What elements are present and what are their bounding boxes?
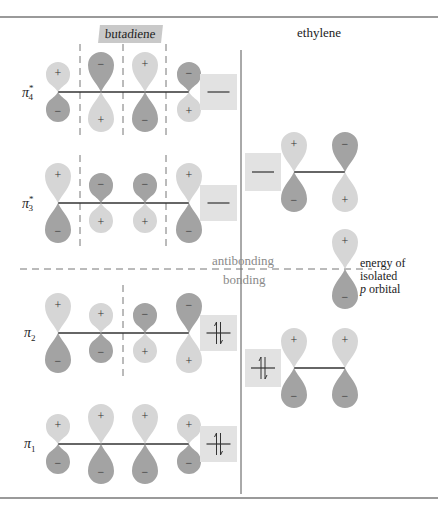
pi4-name: π: [22, 85, 29, 100]
butadiene-mo0-atom0-upper-lobe-sign: +: [55, 66, 62, 80]
butadiene-mo2-atom0-lower-lobe-sign: −: [55, 354, 62, 368]
butadiene-mo1-atom2-upper-lobe-sign: −: [142, 177, 149, 191]
butadiene-mo1-atom1-upper-lobe-sign: −: [98, 177, 105, 191]
isolated-p-line3: p orbital: [360, 283, 405, 296]
isolated-p-upper-lobe-sign: +: [342, 234, 349, 248]
ethylene-mo1-atom1-lower-lobe-sign: −: [342, 389, 349, 403]
top-rule: [0, 16, 438, 18]
butadiene-mo0-atom3-lower-lobe-sign: +: [186, 104, 193, 118]
butadiene-mo2-atom2-lower-lobe-sign: +: [142, 345, 149, 359]
butadiene-mo1-atom3-upper-lobe-sign: +: [186, 168, 193, 182]
butadiene-mo3-atom2-lower-lobe-sign: −: [142, 465, 149, 479]
bonding-label: bonding: [223, 273, 266, 286]
ethylene-mo0-atom1-lower-lobe-sign: +: [342, 193, 349, 207]
butadiene-mo0-atom0-lower-lobe-sign: −: [55, 104, 62, 118]
pi2-sub: 2: [31, 333, 36, 343]
isolated-p-lower-lobe-sign: −: [342, 290, 349, 304]
pi1-label: π1: [24, 437, 36, 454]
ethylene-mo1-atom0-upper-lobe-sign: +: [291, 333, 298, 347]
butadiene-mo3-atom3-upper-lobe-sign: +: [186, 418, 193, 432]
butadiene-mo1-atom0-lower-lobe-sign: −: [55, 224, 62, 238]
pi2-name: π: [24, 325, 31, 340]
ethylene-header: ethylene: [297, 26, 341, 39]
butadiene-mo2-atom1-upper-lobe-sign: +: [98, 307, 105, 321]
butadiene-mo0-atom2-lower-lobe-sign: −: [142, 113, 149, 127]
ethylene-mo1-atom1-upper-lobe-sign: +: [342, 333, 349, 347]
butadiene-mo3-atom0-lower-lobe-sign: −: [55, 456, 62, 470]
antibonding-label: antibonding: [212, 254, 274, 267]
butadiene-mo0-atom2-upper-lobe-sign: +: [142, 57, 149, 71]
pi3-sub: 3: [29, 203, 34, 213]
pi1-sub: 1: [31, 444, 36, 454]
isolated-p-label: energy of isolated p orbital: [360, 257, 405, 296]
butadiene-mo1-atom2-lower-lobe-sign: +: [142, 215, 149, 229]
butadiene-mo2-atom0-upper-lobe-sign: +: [55, 298, 62, 312]
ethylene-mo0-atom0-lower-lobe-sign: −: [291, 193, 298, 207]
butadiene-mo2-atom2-upper-lobe-sign: −: [142, 307, 149, 321]
butadiene-mo1-atom3-lower-lobe-sign: −: [186, 224, 193, 238]
butadiene-mo3-atom0-upper-lobe-sign: +: [55, 418, 62, 432]
pi3-star-label: π*3: [22, 195, 33, 213]
orbital-word: orbital: [366, 282, 400, 296]
pi4-star-label: π*4: [22, 84, 33, 102]
pi2-label: π2: [24, 326, 36, 343]
butadiene-mo2-atom3-lower-lobe-sign: +: [186, 354, 193, 368]
ethylene-mo0-atom1-upper-lobe-sign: −: [342, 137, 349, 151]
butadiene-mo3-atom1-lower-lobe-sign: −: [98, 465, 105, 479]
butadiene-mo0-atom3-upper-lobe-sign: −: [186, 66, 193, 80]
butadiene-mo0-atom1-lower-lobe-sign: +: [98, 113, 105, 127]
ethylene-mo0-atom0-upper-lobe-sign: +: [291, 137, 298, 151]
butadiene-mo3-atom3-lower-lobe-sign: −: [186, 456, 193, 470]
butadiene-header: butadiene: [98, 25, 162, 43]
butadiene-mo3-atom2-upper-lobe-sign: +: [142, 409, 149, 423]
bottom-rule: [0, 497, 438, 499]
pi1-name: π: [24, 436, 31, 451]
butadiene-mo3-atom1-upper-lobe-sign: +: [98, 409, 105, 423]
butadiene-mo2-atom3-upper-lobe-sign: −: [186, 298, 193, 312]
butadiene-mo1-atom0-upper-lobe-sign: +: [55, 168, 62, 182]
butadiene-mo0-atom1-upper-lobe-sign: −: [98, 57, 105, 71]
pi4-sub: 4: [29, 92, 34, 102]
ethylene-mo1-atom0-lower-lobe-sign: −: [291, 389, 298, 403]
butadiene-mo2-atom1-lower-lobe-sign: −: [98, 345, 105, 359]
butadiene-mo1-atom1-lower-lobe-sign: +: [98, 215, 105, 229]
pi3-name: π: [22, 196, 29, 211]
